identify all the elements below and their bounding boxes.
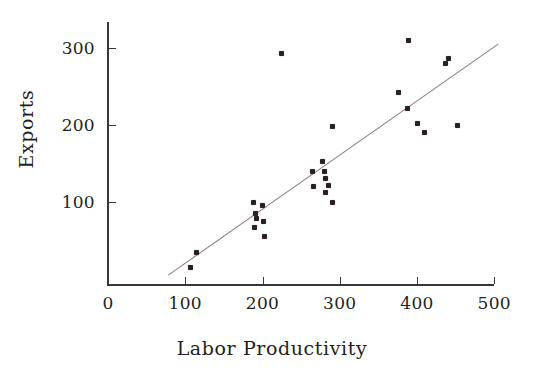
data-point xyxy=(322,169,327,174)
data-point xyxy=(320,159,325,164)
data-point xyxy=(330,124,335,129)
data-point xyxy=(254,216,259,221)
x-axis-label: Labor Productivity xyxy=(0,337,544,359)
data-point xyxy=(415,121,420,126)
data-point xyxy=(455,123,460,128)
data-point xyxy=(279,51,284,56)
scatter-chart: 0100200300400500100200300 Labor Producti… xyxy=(0,0,544,384)
data-point xyxy=(323,190,328,195)
data-point xyxy=(194,250,199,255)
data-point xyxy=(443,61,448,66)
data-point xyxy=(260,203,265,208)
data-points-layer xyxy=(0,0,544,384)
data-point xyxy=(405,106,410,111)
data-point xyxy=(326,183,331,188)
data-point xyxy=(251,200,256,205)
data-point xyxy=(310,169,315,174)
data-point xyxy=(396,90,401,95)
data-point xyxy=(323,176,328,181)
data-point xyxy=(253,211,258,216)
y-axis-label: Exports xyxy=(15,59,37,199)
data-point xyxy=(311,184,316,189)
data-point xyxy=(262,234,267,239)
data-point xyxy=(446,56,451,61)
data-point xyxy=(330,200,335,205)
data-point xyxy=(406,38,411,43)
data-point xyxy=(252,225,257,230)
data-point xyxy=(261,219,266,224)
data-point xyxy=(188,265,193,270)
data-point xyxy=(422,130,427,135)
